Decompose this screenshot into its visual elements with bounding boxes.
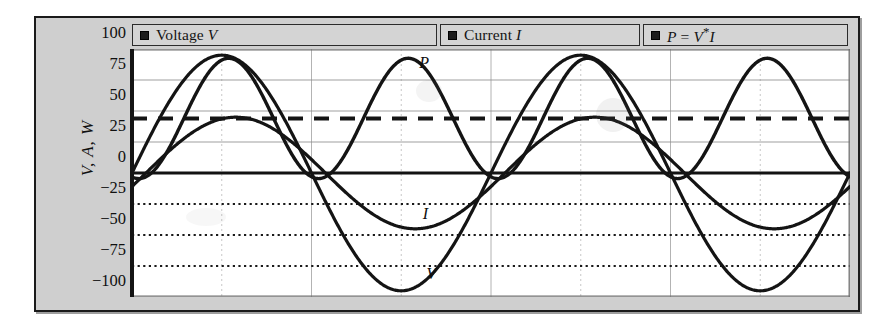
legend-item-power[interactable]: P = V*I	[643, 24, 848, 46]
curve-label-current: I	[423, 206, 428, 222]
y-axis-tick-labels: 100 75 50 25 0 −25 −50 −75 −100	[58, 18, 132, 310]
y-tick-label: 75	[110, 56, 127, 73]
square-marker-icon	[651, 31, 660, 40]
y-tick-label: 50	[110, 87, 127, 104]
chart-outer-frame: V, A, W 100 75 50 25 0 −25 −50 −75 −100 …	[34, 16, 860, 312]
curve-label-power: P	[419, 55, 429, 71]
y-tick-label: −100	[92, 273, 126, 290]
figure-root: V, A, W 100 75 50 25 0 −25 −50 −75 −100 …	[0, 0, 882, 335]
curve-label-voltage: V	[426, 266, 436, 282]
square-marker-icon	[140, 31, 149, 40]
y-tick-label: 25	[110, 118, 127, 135]
waveform-plot	[132, 49, 850, 297]
y-tick-label: −50	[100, 211, 126, 228]
y-tick-label: −75	[100, 242, 126, 259]
legend-item-label: Current I	[464, 27, 521, 43]
legend-item-current[interactable]: Current I	[440, 24, 640, 46]
y-tick-label: 100	[101, 25, 126, 42]
y-tick-label: 0	[118, 149, 126, 166]
legend-item-voltage[interactable]: Voltage V	[132, 24, 437, 46]
plot-area: P I V	[132, 49, 850, 297]
y-axis-spine	[130, 49, 134, 297]
y-tick-label: −25	[100, 180, 126, 197]
legend-item-label: P = V*I	[667, 26, 715, 45]
legend: Voltage V Current I P = V*I	[132, 24, 850, 46]
legend-item-label: Voltage V	[156, 27, 217, 43]
square-marker-icon	[448, 31, 457, 40]
